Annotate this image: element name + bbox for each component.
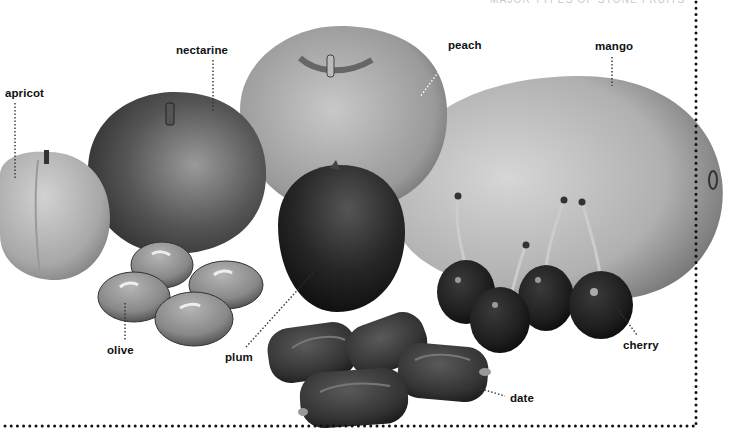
olive-illustration	[98, 242, 263, 346]
label-mango: mango	[595, 40, 633, 52]
label-apricot: apricot	[5, 87, 44, 99]
nectarine-illustration	[88, 92, 266, 254]
label-plum: plum	[225, 351, 253, 363]
label-cherry: cherry	[623, 339, 659, 351]
label-date: date	[510, 392, 534, 404]
fruit-diagram: MAJOR TYPES OF STONE FRUITS	[0, 0, 736, 445]
label-peach: peach	[448, 39, 482, 51]
date-illustration	[265, 306, 491, 430]
fruit-illustration	[0, 0, 736, 445]
label-nectarine: nectarine	[176, 44, 228, 56]
plum-illustration	[278, 160, 405, 312]
label-olive: olive	[107, 344, 134, 356]
